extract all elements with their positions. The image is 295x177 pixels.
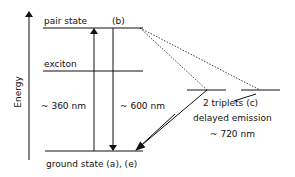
exciton-label: exciton <box>44 59 77 69</box>
energy-axis: Energy <box>13 12 29 160</box>
absorption-transition: ~ 360 nm <box>41 29 94 151</box>
ground-state-label: ground state (a), (e) <box>46 159 137 169</box>
delayed-emission-wavelength: ~ 720 nm <box>210 129 255 139</box>
pair-state-level: pair state (b) <box>43 16 143 28</box>
energy-axis-label: Energy <box>13 76 23 108</box>
pair-state-label: pair state <box>44 16 88 26</box>
fission-paths <box>140 28 260 90</box>
triplet-levels: 2 triplets (c) <box>187 90 280 108</box>
emission-label: ~ 600 nm <box>120 101 165 111</box>
delayed-emission-label: delayed emission <box>193 113 272 123</box>
exciton-level: exciton <box>43 59 143 71</box>
ground-state-level: ground state (a), (e) <box>45 151 143 169</box>
energy-level-diagram: Energy pair state (b) exciton ground sta… <box>0 0 295 177</box>
pair-state-tag: (b) <box>112 16 125 26</box>
absorption-label: ~ 360 nm <box>41 101 86 111</box>
triplets-label: 2 triplets (c) <box>203 98 258 108</box>
